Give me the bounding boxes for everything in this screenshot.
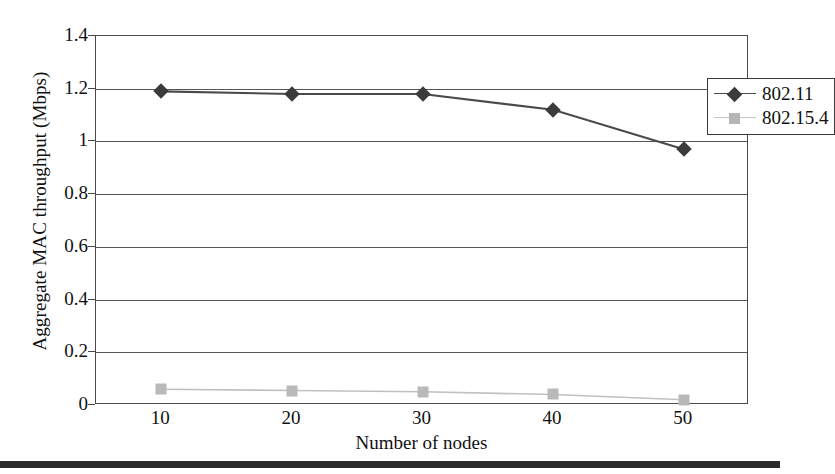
y-axis-tick-mark — [88, 35, 95, 36]
y-axis-tick-label: 1.4 — [28, 24, 88, 46]
data-point — [286, 385, 297, 396]
plot-area: 802.11 802.15.4 — [95, 35, 748, 404]
x-axis-title: Number of nodes — [95, 432, 748, 454]
legend-label-802-11: 802.11 — [756, 83, 814, 105]
x-axis-tick-label: 40 — [512, 407, 592, 429]
y-axis-tick-label: 1.2 — [28, 77, 88, 99]
data-point — [548, 389, 559, 400]
y-axis-tick-mark — [88, 404, 95, 405]
x-axis-tick-label: 20 — [251, 407, 331, 429]
y-axis-tick-mark — [88, 193, 95, 194]
data-point — [678, 394, 689, 405]
y-axis-tick-label: 0 — [28, 393, 88, 415]
x-axis-tick-label: 10 — [120, 407, 200, 429]
data-point — [156, 384, 167, 395]
y-axis-tick-label: 0.2 — [28, 340, 88, 362]
y-axis-tick-mark — [88, 351, 95, 352]
legend-label-802-15-4: 802.15.4 — [756, 107, 829, 129]
x-axis-tick-label: 50 — [643, 407, 723, 429]
y-axis-tick-label: 0.8 — [28, 182, 88, 204]
data-point — [417, 386, 428, 397]
y-axis-tick-label: 0.4 — [28, 288, 88, 310]
y-axis-tick-mark — [88, 299, 95, 300]
y-axis-tick-mark — [88, 246, 95, 247]
y-axis-tick-mark — [88, 140, 95, 141]
y-axis-tick-label: 0.6 — [28, 235, 88, 257]
x-axis-tick-label: 30 — [382, 407, 462, 429]
bottom-rule — [0, 461, 780, 468]
y-axis-tick-mark — [88, 88, 95, 89]
y-axis-tick-label: 1 — [28, 129, 88, 151]
